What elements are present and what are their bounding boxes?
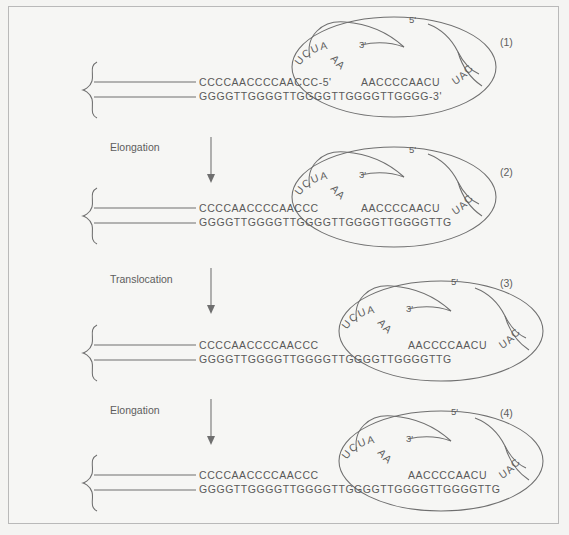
down-arrow-head-1 (207, 174, 215, 183)
rna-arc-mid-3: AA (375, 316, 395, 336)
panel-4-dna-top: CCCCAACCCCAACCC (199, 469, 319, 481)
panel-1-five-prime-label: 5' (409, 14, 416, 25)
panel-2-number: (2) (500, 166, 513, 178)
panel-3-three-prime-label: 3' (406, 303, 413, 314)
down-arrow-head-3 (207, 436, 215, 445)
panel-1-rna-template: AACCCCAACU (361, 76, 440, 88)
panel-4-rna-template: AACCCCAACU (408, 469, 487, 481)
chromosome-end-icon-2 (83, 188, 97, 244)
panel-3-rna-template: AACCCCAACU (408, 339, 487, 351)
panel-3-five-prime-label: 5' (451, 276, 458, 287)
panel-2-dna-top: CCCCAACCCCAACCC (199, 202, 319, 214)
panel-1-group (83, 17, 496, 118)
rna-3prime-tail-4 (408, 437, 451, 441)
panel-4-group (83, 411, 543, 511)
chromosome-end-icon-1 (83, 62, 97, 118)
arrow-group-1 (207, 137, 215, 183)
panel-2-group (83, 147, 496, 247)
panel-1-dna-top: CCCCAACCCCAACCC-5' (199, 76, 332, 88)
down-arrow-head-2 (207, 305, 215, 314)
panel-4-five-prime-label: 5' (451, 406, 458, 417)
step-label-elongation-2: Elongation (110, 404, 160, 416)
step-label-elongation-1: Elongation (110, 141, 160, 153)
rna-3prime-tail-3 (408, 307, 451, 311)
panel-4-three-prime-label: 3' (406, 433, 413, 444)
panel-2-three-prime-label: 3' (359, 169, 366, 180)
panel-1-number: (1) (500, 36, 513, 48)
panel-3-dna-bottom: GGGGTTGGGGTTGGGGTTGGGGTTGGGGTTG (199, 353, 452, 365)
panel-1-three-prime-label: 3' (359, 39, 366, 50)
chromosome-end-icon-4 (83, 455, 97, 511)
arrow-group-3 (207, 399, 215, 445)
panel-2-five-prime-label: 5' (409, 144, 416, 155)
panel-1-dna-bottom: GGGGTTGGGGTTGGGGTTGGGGTTGGGG-3' (199, 90, 442, 102)
panel-4-dna-bottom: GGGGTTGGGGTTGGGGTTGGGGTTGGGGTTGGGGTTG (199, 483, 501, 495)
rna-arc-mid-2: AA (328, 182, 348, 202)
arrow-group-2 (207, 268, 215, 314)
panel-2-rna-template: AACCCCAACU (361, 202, 440, 214)
step-label-translocation: Translocation (110, 273, 173, 285)
rna-arc-mid-1: AA (328, 52, 348, 72)
rna-arc-left-4: UCUA (339, 433, 376, 461)
chromosome-end-icon-3 (83, 325, 97, 381)
panel-3-dna-top: CCCCAACCCCAACCC (199, 339, 319, 351)
panel-3-number: (3) (500, 277, 513, 289)
figure-stage: UCUA AA UAC UCUA AA UAC UCUA A (0, 0, 569, 535)
panel-3-group (83, 281, 543, 381)
rna-arc-mid-4: AA (375, 446, 395, 466)
rna-arc-left-3: UCUA (339, 303, 376, 331)
rna-3prime-tail-1 (361, 43, 404, 47)
rna-arc-left-2: UCUA (292, 169, 329, 197)
rna-3prime-tail-2 (361, 173, 404, 177)
rna-arc-left-1: UCUA (292, 39, 329, 67)
panel-2-dna-bottom: GGGGTTGGGGTTGGGGTTGGGGTTGGGGTTG (199, 216, 452, 228)
telomerase-figure: UCUA AA UAC UCUA AA UAC UCUA A (0, 0, 569, 535)
panel-4-number: (4) (500, 407, 513, 419)
